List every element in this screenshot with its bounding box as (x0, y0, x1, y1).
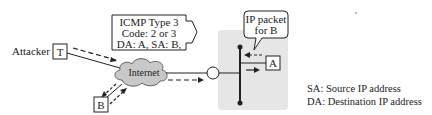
bus-terminator-icon (238, 45, 243, 50)
legend-da: DA: Destination IP address (307, 96, 422, 108)
stray-mark (355, 12, 357, 14)
packet-callout-line-2: for B (244, 24, 288, 36)
bus-terminator-icon (238, 101, 243, 106)
arrowhead-icon (198, 77, 204, 83)
internet-label: Internet (122, 67, 166, 79)
node-b-label: B (94, 99, 108, 111)
dashed-arrow-attacker-to-internet (73, 48, 116, 60)
dashed-arrow-internet-to-b (104, 84, 116, 95)
attacker-label: Attacker (12, 45, 50, 57)
node-t-label: T (53, 46, 67, 58)
icmp-line-3: DA: A, SA: B, (112, 38, 186, 50)
legend-sa: SA: Source IP address (307, 83, 401, 95)
router-icon (207, 67, 219, 79)
node-a-label: A (266, 57, 280, 69)
